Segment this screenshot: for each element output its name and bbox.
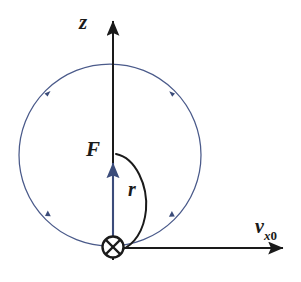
orbit-direction-markers — [45, 91, 176, 217]
radius-label: r — [128, 179, 136, 199]
radius-arc — [116, 154, 146, 250]
velocity-subscript-zero: 0 — [270, 228, 277, 243]
velocity-label: vx0 — [255, 216, 277, 240]
orbit-circle — [19, 64, 201, 246]
vector-into-page-icon — [103, 237, 124, 258]
z-axis-label: z — [79, 12, 87, 33]
velocity-symbol: v — [255, 215, 264, 237]
force-label: F — [86, 139, 100, 160]
physics-diagram-figure: z F r vx0 — [0, 0, 301, 282]
